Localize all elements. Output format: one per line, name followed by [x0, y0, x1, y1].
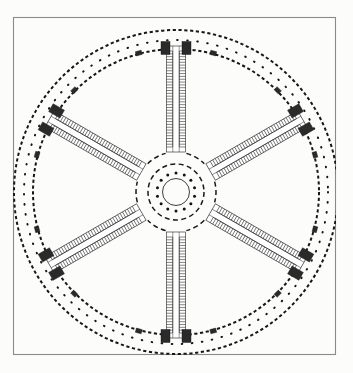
radial-prison-plan-drawing: [0, 0, 353, 373]
rotunda-column: [189, 179, 192, 182]
rotunda-column: [166, 173, 169, 176]
rotunda-column: [175, 210, 178, 213]
engraving-plate: Radial Panopticon Prison Plan Six radiat…: [0, 0, 353, 373]
rotunda-column: [193, 186, 196, 189]
rotunda-column: [156, 186, 159, 189]
wing-terminal-block: [161, 42, 170, 55]
rotunda-column: [175, 172, 178, 175]
wing-terminal-block: [182, 42, 191, 55]
rotunda-column: [156, 195, 159, 198]
rotunda-column: [160, 179, 163, 182]
rotunda-column: [183, 208, 186, 211]
rotunda-column: [193, 195, 196, 198]
wing-terminal-block: [182, 330, 191, 343]
wing-terminal-block: [161, 330, 170, 343]
rotunda-column: [160, 202, 163, 205]
rotunda-column: [166, 208, 169, 211]
rotunda-column: [189, 202, 192, 205]
rotunda-column: [183, 173, 186, 176]
